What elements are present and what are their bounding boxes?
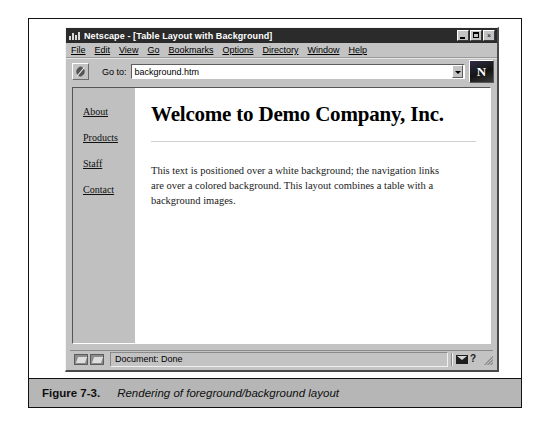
- page-heading: Welcome to Demo Company, Inc.: [151, 102, 476, 127]
- menu-item-file[interactable]: File: [71, 45, 86, 55]
- security-key-icon[interactable]: [72, 63, 89, 80]
- menu-item-go-label: Go: [147, 45, 159, 55]
- figure-number: Figure 7-3.: [42, 387, 100, 399]
- window-controls: ×: [457, 30, 495, 41]
- menu-item-view[interactable]: View: [119, 45, 138, 55]
- page-content-area: About Products Staff Contact Welcome to …: [72, 87, 491, 344]
- menu-item-go[interactable]: Go: [147, 45, 159, 55]
- nav-link-contact[interactable]: Contact: [83, 184, 135, 195]
- menu-item-options-label: Options: [222, 45, 253, 55]
- url-input[interactable]: background.htm: [131, 64, 465, 79]
- nav-column: About Products Staff Contact: [73, 88, 135, 343]
- nav-link-staff[interactable]: Staff: [83, 158, 135, 169]
- maximize-button[interactable]: [470, 30, 482, 41]
- heading-divider: [151, 141, 476, 142]
- status-icon-group: [74, 354, 104, 365]
- help-question-icon[interactable]: ?: [470, 354, 476, 364]
- mail-icon[interactable]: [456, 355, 468, 364]
- resize-grip[interactable]: [481, 353, 493, 365]
- nav-link-about[interactable]: About: [83, 106, 135, 117]
- signature-icon[interactable]: [74, 354, 88, 365]
- netscape-logo[interactable]: N: [469, 60, 494, 83]
- security-status-icon[interactable]: [90, 354, 104, 365]
- status-right-icons: ?: [456, 354, 479, 364]
- close-button[interactable]: ×: [483, 30, 495, 41]
- menu-item-file-label: File: [71, 45, 86, 55]
- menu-item-directory-label: Directory: [262, 45, 298, 55]
- nav-link-products[interactable]: Products: [83, 132, 135, 143]
- menu-item-window-label: Window: [307, 45, 339, 55]
- menu-item-edit[interactable]: Edit: [95, 45, 111, 55]
- menu-item-edit-label: Edit: [95, 45, 111, 55]
- menu-item-bookmarks-label: Bookmarks: [168, 45, 213, 55]
- menu-bar: File Edit View Go Bookmarks Options Dire…: [66, 43, 497, 58]
- menu-item-view-label: View: [119, 45, 138, 55]
- menu-item-options[interactable]: Options: [222, 45, 253, 55]
- title-bar: Netscape - [Table Layout with Background…: [66, 28, 497, 43]
- status-message: Document: Done: [110, 352, 448, 367]
- status-bar: Document: Done ?: [70, 350, 493, 367]
- location-toolbar: Go to: background.htm N: [66, 58, 497, 84]
- menu-item-directory[interactable]: Directory: [262, 45, 298, 55]
- figure-caption-text: Rendering of foreground/background layou…: [117, 387, 339, 399]
- goto-label: Go to:: [102, 67, 127, 77]
- main-column: Welcome to Demo Company, Inc. This text …: [135, 88, 490, 343]
- window-title: Netscape - [Table Layout with Background…: [84, 31, 272, 41]
- netscape-window-icon: [69, 30, 80, 41]
- menu-item-window[interactable]: Window: [307, 45, 339, 55]
- menu-item-help[interactable]: Help: [348, 45, 367, 55]
- menu-item-help-label: Help: [348, 45, 367, 55]
- url-history-dropdown-icon[interactable]: [452, 65, 463, 78]
- page-paragraph: This text is positioned over a white bac…: [151, 163, 451, 208]
- status-divider: [451, 353, 453, 366]
- url-input-value: background.htm: [135, 67, 200, 77]
- figure-caption-band: Figure 7-3. Rendering of foreground/back…: [28, 378, 522, 408]
- menu-item-bookmarks[interactable]: Bookmarks: [168, 45, 213, 55]
- book-page: Netscape - [Table Layout with Background…: [28, 18, 522, 408]
- minimize-button[interactable]: [457, 30, 469, 41]
- netscape-browser-window: Netscape - [Table Layout with Background…: [65, 27, 499, 372]
